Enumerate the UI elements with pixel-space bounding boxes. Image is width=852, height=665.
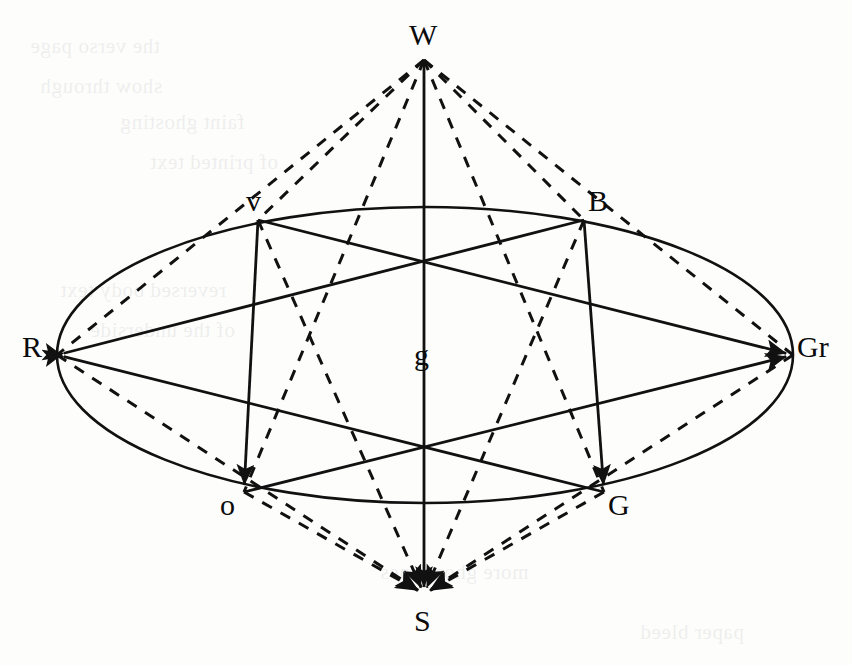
dashed-edge-o-S [244, 492, 418, 591]
vertex-label-G: G [608, 490, 630, 520]
vertex-label-v: v [246, 186, 261, 216]
vertex-label-g: g [414, 340, 429, 370]
dashed-edge-Gr-S [430, 355, 793, 590]
dashed-edge-B-S [427, 220, 584, 588]
dashed-edge-v-S [258, 220, 421, 588]
dashed-edge-W-o [244, 60, 424, 492]
figure-page: the verso pageshow throughfaint ghosting… [0, 0, 852, 665]
vertex-label-B: B [588, 186, 608, 216]
vertex-label-o: o [220, 490, 235, 520]
vertex-label-R: R [22, 332, 42, 362]
solid-edge-B-G [584, 220, 603, 485]
dashed-edge-G-S [430, 492, 604, 591]
diagram-canvas [0, 0, 852, 665]
solid-edge-o-Gr [244, 357, 786, 492]
dashed-edge-R-S [57, 355, 418, 590]
solid-edge-R-G [64, 357, 604, 492]
vertex-label-Gr: Gr [797, 332, 829, 362]
dashed-edge-W-G [424, 60, 604, 492]
solid-edge-v-o [244, 220, 258, 485]
dashed-edge-W-v [258, 60, 424, 220]
vertex-label-W: W [409, 20, 437, 50]
dashed-edge-W-B [424, 60, 584, 220]
vertex-label-S: S [414, 606, 431, 636]
solid-edge-group [64, 60, 786, 587]
